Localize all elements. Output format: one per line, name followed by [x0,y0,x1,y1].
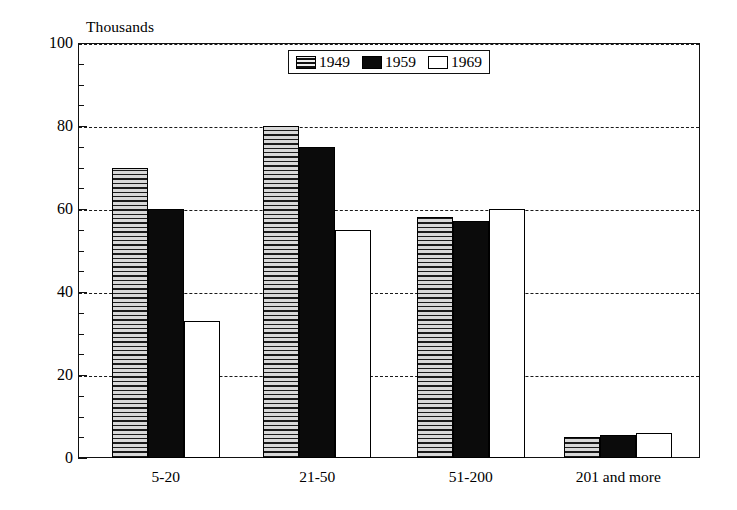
legend-label-1959: 1959 [385,54,416,70]
bar-1949-5-20 [112,168,148,459]
bar-group-3 [564,43,672,458]
chart-legend: 194919591969 [288,50,490,74]
legend-label-1969: 1969 [451,54,482,70]
bar-1969-51-200 [489,209,525,458]
x-axis-label-2: 51-200 [449,468,493,486]
bar-group-0 [112,43,220,458]
bar-chart-figure: Thousands 020406080100 5-2021-5051-20020… [0,0,737,510]
bars-layer [78,43,700,458]
y-axis-label-40: 40 [13,284,73,300]
legend-swatch-icon-1959 [362,56,382,69]
legend-entry-1959: 1959 [362,54,416,70]
y-axis-label-0: 0 [13,450,73,466]
bar-1969-5-20 [184,321,220,458]
legend-swatch-icon-1949 [296,56,316,69]
bar-1949-51-200 [417,217,453,458]
bar-1959-201-and-more [600,435,636,458]
x-axis-label-0: 5-20 [152,468,180,486]
x-axis-label-3: 201 and more [576,468,661,486]
y-axis-label-80: 80 [13,118,73,134]
bar-1949-201-and-more [564,437,600,458]
bar-group-2 [417,43,525,458]
bar-1949-21-50 [263,126,299,458]
y-axis-label-20: 20 [13,367,73,383]
bar-1959-51-200 [453,221,489,458]
y-axis-label-100: 100 [13,35,73,51]
x-axis-label-1: 21-50 [299,468,335,486]
bar-1959-5-20 [148,209,184,458]
legend-swatch-icon-1969 [428,56,448,69]
bar-1969-201-and-more [636,433,672,458]
bar-group-1 [263,43,371,458]
y-axis-unit-label: Thousands [86,18,154,36]
legend-entry-1949: 1949 [296,54,350,70]
bar-1959-21-50 [299,147,335,458]
legend-entry-1969: 1969 [428,54,482,70]
y-tick-major-0 [78,458,87,459]
y-axis-label-60: 60 [13,201,73,217]
bar-1969-21-50 [335,230,371,458]
legend-label-1949: 1949 [319,54,350,70]
